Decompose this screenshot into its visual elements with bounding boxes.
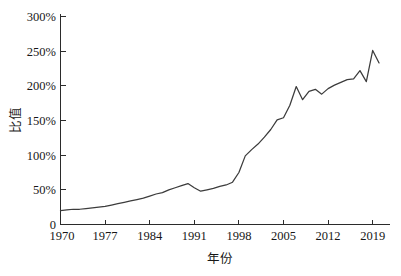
x-tick-label-2005: 2005 (271, 229, 296, 243)
y-axis-tick-labels: 300% 250% 200% 150% 100% 50% 0 (27, 10, 56, 232)
x-tick-label-1970: 1970 (50, 229, 75, 243)
x-axis-ticks (61, 220, 373, 225)
y-tick-label-200: 200% (27, 79, 56, 93)
y-tick-label-250: 250% (27, 45, 56, 59)
line-chart: 300% 250% 200% 150% 100% 50% 0 1970 1977… (0, 0, 401, 276)
x-axis-tick-labels: 1970 1977 1984 1991 1998 2005 2012 2019 (50, 229, 386, 243)
y-axis-ticks (61, 17, 66, 190)
x-tick-label-1998: 1998 (226, 229, 251, 243)
x-tick-label-2019: 2019 (360, 229, 385, 243)
y-tick-label-100: 100% (27, 149, 56, 163)
x-axis-title: 年份 (207, 252, 233, 266)
x-tick-label-1991: 1991 (182, 229, 207, 243)
y-tick-label-300: 300% (27, 10, 56, 24)
data-series-line (61, 50, 380, 210)
x-tick-label-2012: 2012 (316, 229, 341, 243)
y-tick-label-150: 150% (27, 114, 56, 128)
chart-container: 300% 250% 200% 150% 100% 50% 0 1970 1977… (0, 0, 401, 276)
x-tick-label-1977: 1977 (93, 229, 118, 243)
x-tick-label-1984: 1984 (137, 229, 163, 243)
y-axis-title: 比值 (8, 107, 23, 133)
y-tick-label-50: 50% (33, 183, 56, 197)
